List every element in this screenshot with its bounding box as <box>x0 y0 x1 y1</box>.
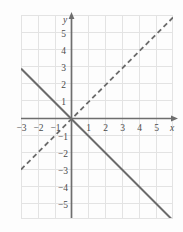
y-axis-label: y <box>62 15 68 25</box>
figure-background <box>0 0 183 232</box>
y-tick-label: 4 <box>61 46 66 56</box>
x-tick-label: 3 <box>120 123 125 133</box>
y-tick-label: 1 <box>61 97 66 107</box>
y-tick-label: 3 <box>61 63 66 73</box>
y-tick-label: −2 <box>58 149 68 159</box>
x-tick-label: 4 <box>137 123 142 133</box>
y-tick-label: −5 <box>58 200 68 210</box>
x-tick-label: −3 <box>16 123 26 133</box>
x-tick-label: −2 <box>33 123 43 133</box>
y-tick-label: −3 <box>58 166 68 176</box>
x-tick-label: 2 <box>103 123 108 133</box>
y-tick-label: 5 <box>61 29 66 39</box>
coordinate-graph-figure: −3 −2 −1 1 2 3 4 5 5 4 3 2 1 −1 −2 −3 −4… <box>0 0 183 232</box>
graph-plot-area: −3 −2 −1 1 2 3 4 5 5 4 3 2 1 −1 −2 −3 −4… <box>0 0 183 232</box>
x-tick-label: 5 <box>154 123 159 133</box>
y-tick-label: −1 <box>58 132 68 142</box>
y-tick-label: 2 <box>61 80 66 90</box>
x-tick-labels: −3 −2 −1 1 2 3 4 5 <box>16 123 159 133</box>
y-tick-label: −4 <box>58 183 68 193</box>
x-tick-label: 1 <box>86 123 91 133</box>
x-axis-label: x <box>169 123 175 133</box>
